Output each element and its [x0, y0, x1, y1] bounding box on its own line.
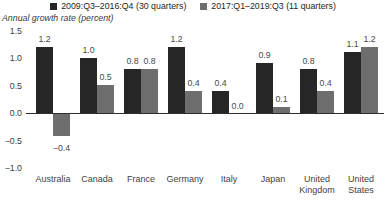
legend-swatch-dark-icon — [50, 3, 57, 10]
value-label-australia-series-1: 1.2 — [29, 34, 61, 44]
bar-united-states-series-1 — [344, 52, 361, 113]
bar-france-series-2 — [141, 69, 158, 113]
legend-item-period-2: 2017:Q1–2019:Q3 (11 quarters) — [200, 1, 336, 11]
bar-united-states-series-2 — [361, 47, 378, 113]
y-tick-label: 0.0 — [0, 108, 22, 118]
x-axis-label-australia: Australia — [31, 174, 75, 185]
bar-australia-series-2 — [53, 114, 70, 136]
y-tick-label: 0.5 — [0, 81, 22, 91]
value-label-canada-series-1: 1.0 — [73, 45, 105, 55]
value-label-germany-series-1: 1.2 — [161, 34, 193, 44]
chart-legend: 2009:Q3–2016:Q4 (30 quarters) 2017:Q1–20… — [0, 1, 386, 11]
y-axis-title: Annual growth rate (percent) — [2, 13, 114, 23]
value-label-united-kingdom-series-2: 0.4 — [310, 78, 342, 88]
bar-japan-series-1 — [256, 63, 273, 113]
bar-germany-series-2 — [185, 91, 202, 113]
x-axis-line — [26, 113, 384, 114]
legend-label-period-1: 2009:Q3–2016:Q4 (30 quarters) — [61, 1, 186, 11]
y-tick-label: −1.0 — [0, 163, 22, 173]
y-tick-label: 1.5 — [0, 26, 22, 36]
bar-united-kingdom-series-2 — [317, 91, 334, 113]
value-label-japan-series-1: 0.9 — [249, 50, 281, 60]
value-label-australia-series-2: −0.4 — [46, 143, 78, 153]
y-tick-label: −0.5 — [0, 136, 22, 146]
bar-chart: 2009:Q3–2016:Q4 (30 quarters) 2017:Q1–20… — [0, 0, 386, 205]
legend-swatch-gray-icon — [200, 3, 207, 10]
bar-france-series-1 — [124, 69, 141, 113]
x-axis-label-japan: Japan — [251, 174, 295, 185]
x-axis-label-united-states: United States — [339, 174, 383, 196]
legend-item-period-1: 2009:Q3–2016:Q4 (30 quarters) — [50, 1, 186, 11]
x-axis-label-germany: Germany — [163, 174, 207, 185]
x-axis-label-united-kingdom: United Kingdom — [295, 174, 339, 196]
bar-canada-series-1 — [80, 58, 97, 113]
value-label-canada-series-2: 0.5 — [90, 72, 122, 82]
y-tick-label: 1.0 — [0, 53, 22, 63]
bar-japan-series-2 — [273, 107, 290, 113]
x-axis-label-italy: Italy — [207, 174, 251, 185]
value-label-united-states-series-2: 1.2 — [354, 34, 386, 44]
legend-label-period-2: 2017:Q1–2019:Q3 (11 quarters) — [211, 1, 336, 11]
value-label-japan-series-2: 0.1 — [266, 94, 298, 104]
x-axis-label-canada: Canada — [75, 174, 119, 185]
value-label-italy-series-2: 0.0 — [222, 101, 254, 111]
value-label-france-series-2: 0.8 — [134, 56, 166, 66]
value-label-united-kingdom-series-1: 0.8 — [293, 56, 325, 66]
bar-united-kingdom-series-1 — [300, 69, 317, 113]
bar-australia-series-1 — [36, 47, 53, 113]
bar-canada-series-2 — [97, 85, 114, 113]
x-axis-label-france: France — [119, 174, 163, 185]
value-label-italy-series-1: 0.4 — [205, 78, 237, 88]
